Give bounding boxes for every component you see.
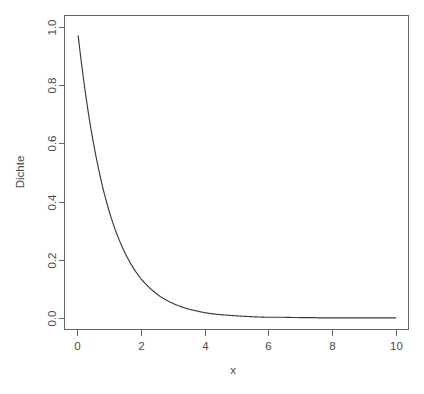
x-axis-title: x — [230, 364, 236, 376]
chart-figure: 0246810 0.00.20.40.60.81.0 x Dichte — [0, 0, 424, 394]
y-tick-label: 1.0 — [46, 20, 58, 36]
y-tick-label: 0.0 — [46, 311, 58, 327]
x-tick-label: 6 — [265, 340, 271, 352]
y-tick-label: 0.8 — [46, 78, 58, 94]
y-tick-label: 0.6 — [46, 136, 58, 152]
y-axis-title: Dichte — [14, 156, 26, 189]
exponential-density-plot: 0246810 0.00.20.40.60.81.0 x Dichte — [0, 0, 424, 394]
x-tick-label: 0 — [74, 340, 80, 352]
y-tick-label: 0.4 — [46, 194, 58, 211]
y-tick-label: 0.2 — [46, 253, 58, 269]
x-tick-label: 4 — [202, 340, 209, 352]
x-tick-label: 2 — [138, 340, 144, 352]
x-tick-label: 8 — [329, 340, 335, 352]
plot-background — [0, 0, 424, 394]
x-tick-label: 10 — [390, 340, 403, 352]
